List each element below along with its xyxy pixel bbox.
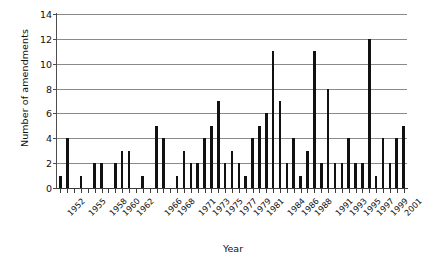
x-tick-mark	[95, 189, 96, 193]
y-tick-label: 12	[40, 33, 52, 44]
bar	[279, 101, 282, 188]
bar	[341, 163, 344, 188]
x-tick-mark	[136, 189, 137, 193]
y-tick-label: 6	[46, 108, 52, 119]
bar	[210, 126, 213, 188]
x-tick-mark	[307, 189, 308, 193]
x-tick-mark	[115, 189, 116, 193]
x-tick-mark	[349, 189, 350, 193]
x-tick-label: 1952	[66, 196, 88, 218]
x-tick-mark	[184, 189, 185, 193]
bar	[196, 163, 199, 188]
x-tick-mark	[397, 189, 398, 193]
bar	[155, 126, 158, 188]
bar	[80, 176, 83, 188]
x-tick-mark	[67, 189, 68, 193]
x-tick-mark	[102, 189, 103, 193]
x-tick-mark	[88, 189, 89, 193]
x-tick-mark	[294, 189, 295, 193]
bar	[128, 151, 131, 188]
x-tick-mark	[390, 189, 391, 193]
y-tick-label: 14	[40, 9, 52, 20]
bar	[176, 176, 179, 188]
y-tick-label: 10	[40, 58, 52, 69]
y-tick-label: 2	[46, 158, 52, 169]
bar	[389, 163, 392, 188]
bar	[313, 51, 316, 188]
x-tick-mark	[60, 189, 61, 193]
bar	[59, 176, 62, 188]
bar	[286, 163, 289, 188]
x-tick-mark	[157, 189, 158, 193]
x-tick-mark	[143, 189, 144, 193]
x-tick-mark	[218, 189, 219, 193]
y-tick-mark	[53, 188, 57, 189]
x-tick-mark	[253, 189, 254, 193]
bar	[100, 163, 103, 188]
bar	[327, 89, 330, 188]
bar	[272, 51, 275, 188]
x-tick-mark	[273, 189, 274, 193]
x-tick-mark	[266, 189, 267, 193]
bar	[395, 138, 398, 188]
bar	[251, 138, 254, 188]
x-tick-mark	[301, 189, 302, 193]
x-tick-mark	[321, 189, 322, 193]
bar	[368, 39, 371, 188]
x-tick-mark	[232, 189, 233, 193]
x-tick-mark	[335, 189, 336, 193]
y-tick-label: 0	[46, 183, 52, 194]
bar	[320, 163, 323, 188]
y-tick-label: 4	[46, 133, 52, 144]
y-tick-mark	[53, 113, 57, 114]
bar	[347, 138, 350, 188]
x-tick-mark	[328, 189, 329, 193]
bar	[162, 138, 165, 188]
bar	[66, 138, 69, 188]
bar	[217, 101, 220, 188]
x-tick-mark	[170, 189, 171, 193]
bar	[292, 138, 295, 188]
bar	[402, 126, 405, 188]
x-axis-title: Year	[57, 243, 409, 254]
y-axis-title: Number of amendments	[16, 0, 34, 188]
gridline	[57, 39, 407, 40]
bar	[231, 151, 234, 188]
x-tick-mark	[259, 189, 260, 193]
x-tick-mark	[211, 189, 212, 193]
x-tick-mark	[383, 189, 384, 193]
bar	[93, 163, 96, 188]
x-tick-mark	[369, 189, 370, 193]
x-tick-mark	[362, 189, 363, 193]
bar	[258, 126, 261, 188]
x-tick-mark	[356, 189, 357, 193]
bar	[306, 151, 309, 188]
gridline	[57, 64, 407, 65]
x-tick-mark	[108, 189, 109, 193]
x-tick-mark	[191, 189, 192, 193]
x-tick-mark	[376, 189, 377, 193]
x-tick-mark	[246, 189, 247, 193]
bar	[190, 163, 193, 188]
bar	[354, 163, 357, 188]
bar	[121, 151, 124, 188]
x-tick-mark	[280, 189, 281, 193]
bar	[265, 113, 268, 188]
x-tick-mark	[198, 189, 199, 193]
bar	[238, 163, 241, 188]
y-tick-mark	[53, 138, 57, 139]
bar	[382, 138, 385, 188]
x-tick-mark	[150, 189, 151, 193]
gridline	[57, 113, 407, 114]
bar	[375, 176, 378, 188]
x-tick-mark	[81, 189, 82, 193]
x-tick-mark	[287, 189, 288, 193]
plot-area: 02468101214	[57, 14, 407, 188]
bar	[203, 138, 206, 188]
x-tick-label: 1955	[86, 196, 108, 218]
y-tick-label: 8	[46, 83, 52, 94]
x-tick-mark	[225, 189, 226, 193]
x-tick-mark	[122, 189, 123, 193]
y-tick-mark	[53, 39, 57, 40]
